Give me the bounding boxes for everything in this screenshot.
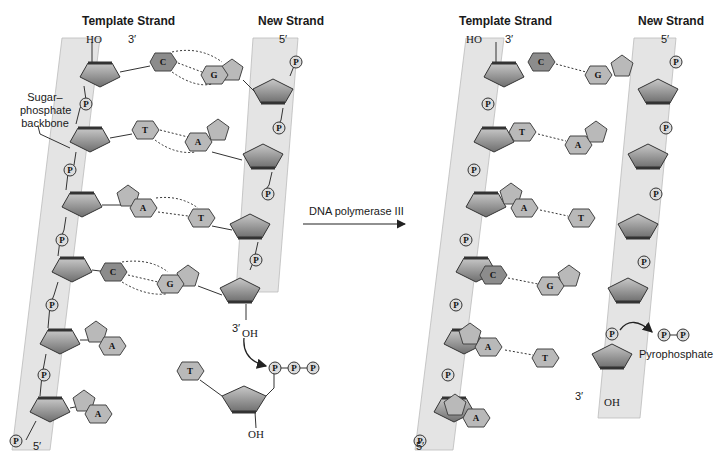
svg-text:P: P bbox=[59, 235, 65, 245]
svg-text:P: P bbox=[653, 189, 659, 199]
svg-text:P: P bbox=[83, 99, 89, 109]
incoming-hydroxyl: OH bbox=[248, 428, 264, 440]
svg-text:G: G bbox=[166, 279, 173, 289]
svg-text:P: P bbox=[463, 235, 469, 245]
svg-text:A: A bbox=[109, 341, 116, 351]
svg-text:T: T bbox=[198, 213, 204, 223]
incoming-nucleotide: T P P P bbox=[177, 338, 319, 428]
svg-text:P: P bbox=[291, 363, 297, 373]
left-new-hydroxyl: OH bbox=[242, 327, 258, 339]
svg-text:P: P bbox=[445, 370, 451, 380]
right-template-5prime: 5′ bbox=[416, 440, 424, 452]
right-template-hydroxyl: HO bbox=[466, 33, 482, 45]
svg-text:C: C bbox=[538, 57, 545, 67]
left-new-strand-label: New Strand bbox=[258, 14, 324, 28]
left-template-strand-label: Template Strand bbox=[82, 14, 175, 28]
svg-text:G: G bbox=[546, 281, 553, 291]
svg-text:P: P bbox=[67, 165, 73, 175]
left-template-5prime: 5′ bbox=[33, 440, 41, 452]
right-new-5prime: 5′ bbox=[661, 33, 669, 45]
svg-text:P: P bbox=[641, 257, 647, 267]
left-new-5prime: 5′ bbox=[279, 33, 287, 45]
svg-text:C: C bbox=[490, 270, 497, 280]
svg-text:T: T bbox=[578, 213, 584, 223]
svg-text:P: P bbox=[471, 165, 477, 175]
svg-text:P: P bbox=[253, 255, 259, 265]
sugar-phosphate-backbone-callout: Sugar– phosphate backbone bbox=[20, 91, 70, 130]
svg-text:P: P bbox=[661, 330, 667, 340]
svg-text:A: A bbox=[575, 140, 582, 150]
svg-text:A: A bbox=[521, 203, 528, 213]
svg-text:P: P bbox=[49, 300, 55, 310]
svg-text:C: C bbox=[110, 267, 117, 277]
svg-text:T: T bbox=[142, 125, 148, 135]
svg-text:G: G bbox=[594, 70, 601, 80]
svg-text:A: A bbox=[195, 137, 202, 147]
svg-text:P: P bbox=[310, 363, 316, 373]
svg-text:A: A bbox=[140, 203, 147, 213]
right-new-strand-label: New Strand bbox=[638, 14, 704, 28]
right-new-hydroxyl: OH bbox=[604, 396, 620, 408]
right-new-3prime: 3′ bbox=[575, 390, 583, 402]
svg-text:T: T bbox=[542, 353, 548, 363]
svg-text:P: P bbox=[276, 123, 282, 133]
svg-text:P: P bbox=[673, 57, 679, 67]
svg-text:A: A bbox=[485, 342, 492, 352]
svg-text:T: T bbox=[187, 366, 193, 376]
left-template-3prime: 3′ bbox=[128, 33, 136, 45]
dna-polymerase-label: DNA polymerase III bbox=[309, 205, 404, 217]
right-template-3prime: 3′ bbox=[505, 33, 513, 45]
svg-text:T: T bbox=[519, 127, 525, 137]
left-template-hydroxyl: HO bbox=[86, 33, 102, 45]
svg-text:C: C bbox=[160, 57, 167, 67]
svg-text:P: P bbox=[293, 57, 299, 67]
svg-text:P: P bbox=[41, 370, 47, 380]
left-new-3prime: 3′ bbox=[232, 322, 240, 334]
svg-text:P: P bbox=[453, 300, 459, 310]
svg-text:G: G bbox=[210, 70, 217, 80]
svg-text:P: P bbox=[272, 363, 278, 373]
right-template-strand-label: Template Strand bbox=[459, 14, 552, 28]
svg-text:P: P bbox=[680, 330, 686, 340]
pyrophosphate-label: Pyrophosphate bbox=[639, 348, 713, 360]
left-base-pairs: C G T A A T C G A bbox=[70, 50, 255, 423]
svg-text:P: P bbox=[609, 329, 615, 339]
svg-text:A: A bbox=[473, 413, 480, 423]
svg-text:P: P bbox=[663, 123, 669, 133]
svg-text:P: P bbox=[485, 99, 491, 109]
svg-text:P: P bbox=[265, 189, 271, 199]
svg-text:P: P bbox=[13, 436, 19, 446]
dna-replication-diagram: PP PP PP PP PP C G bbox=[0, 0, 723, 462]
svg-text:A: A bbox=[95, 409, 102, 419]
